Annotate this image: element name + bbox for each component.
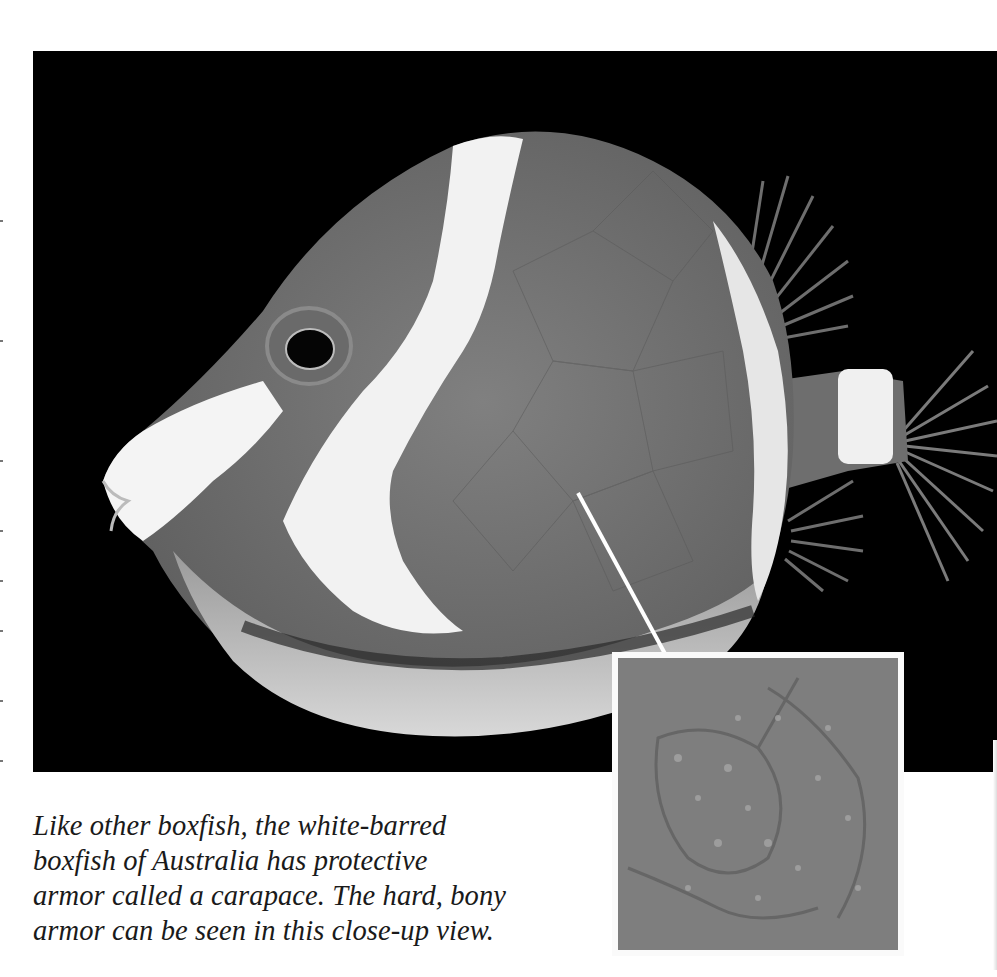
carapace-closeup-inset bbox=[612, 652, 904, 956]
tail-white-bar bbox=[838, 369, 893, 464]
page-edge-shadow bbox=[993, 740, 997, 970]
caption-line: boxfish of Australia has protective bbox=[33, 843, 613, 878]
caption-line: armor called a carapace. The hard, bony bbox=[33, 878, 613, 913]
anal-fin-rays bbox=[785, 481, 863, 591]
carapace-closeup-image bbox=[618, 658, 898, 950]
binding-gutter-marks bbox=[0, 200, 4, 800]
caption-line: Like other boxfish, the white-barred bbox=[33, 808, 613, 843]
caption-line: armor can be seen in this close-up view. bbox=[33, 913, 613, 948]
eye-pupil bbox=[286, 329, 334, 369]
carapace-texture bbox=[618, 658, 898, 950]
photo-caption: Like other boxfish, the white-barred box… bbox=[33, 808, 613, 948]
tail-fin-rays bbox=[897, 351, 997, 581]
